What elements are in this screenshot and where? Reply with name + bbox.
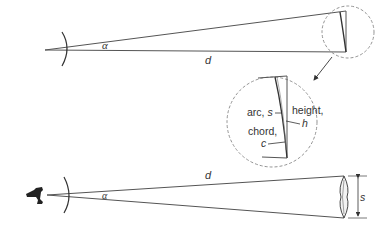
bottom-angle-label: α	[102, 190, 108, 201]
height-label: height,	[292, 104, 324, 116]
bottom-distance-label: d	[205, 169, 212, 181]
top-upper-ray	[45, 11, 346, 50]
inset-bottom-ray	[262, 157, 287, 158]
height-leader-line	[286, 121, 300, 124]
magnified-inset: arc, s chord, c height, h	[227, 76, 324, 167]
top-figure: α d	[45, 6, 374, 80]
top-arc-object	[340, 12, 346, 52]
magnify-arrow-icon	[314, 57, 332, 80]
chord-leader-line	[268, 142, 285, 144]
top-angle-label: α	[102, 39, 108, 51]
inset-top-ray	[258, 76, 287, 78]
height-symbol: h	[302, 117, 308, 129]
bottom-figure: α d s	[26, 169, 367, 218]
chord-label: chord,	[248, 125, 277, 137]
top-angle-arc-icon	[62, 32, 67, 66]
chord-symbol: c	[261, 137, 267, 149]
top-focus-circle	[322, 6, 374, 58]
arc-label: arc, s	[247, 106, 273, 118]
bottom-upper-ray	[47, 176, 344, 195]
top-lower-ray	[45, 50, 346, 52]
bottom-angle-arc-icon	[64, 177, 69, 213]
observer-figure-icon	[26, 187, 43, 204]
distant-object-icon	[340, 176, 348, 218]
inset-arc-curve	[275, 77, 287, 158]
size-label: s	[360, 191, 366, 203]
angular-size-diagram: α d arc, s chord, c height, h	[0, 0, 388, 234]
bottom-lower-ray	[47, 195, 344, 218]
top-distance-label: d	[205, 54, 212, 66]
